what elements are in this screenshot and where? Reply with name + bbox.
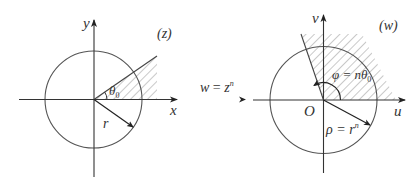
phi-label: φ = nθ0: [332, 67, 371, 84]
v-axis-label: v: [312, 10, 319, 26]
w-plane-name: (w): [379, 18, 398, 34]
rho-label: ρ = rn: [325, 121, 359, 137]
z-plane: y x (z) θ0 r: [19, 15, 177, 177]
mapping-arrow-icon: [239, 97, 246, 103]
u-axis-label: u: [394, 103, 402, 119]
origin-label: O: [304, 103, 315, 119]
conformal-mapping-diagram: y x (z) θ0 r w = zn v u (w) O φ = nθ0 ρ …: [0, 0, 415, 186]
x-axis-label: x: [169, 102, 177, 118]
y-axis-label: y: [81, 15, 90, 31]
z-plane-name: (z): [157, 26, 172, 42]
w-plane: v u (w) O φ = nθ0 ρ = rn: [253, 10, 405, 173]
mapping-label: w = zn: [200, 79, 246, 103]
r-label: r: [103, 116, 109, 131]
r-radius-arrow: [94, 100, 133, 128]
mapping-equation: w = zn: [200, 79, 234, 95]
